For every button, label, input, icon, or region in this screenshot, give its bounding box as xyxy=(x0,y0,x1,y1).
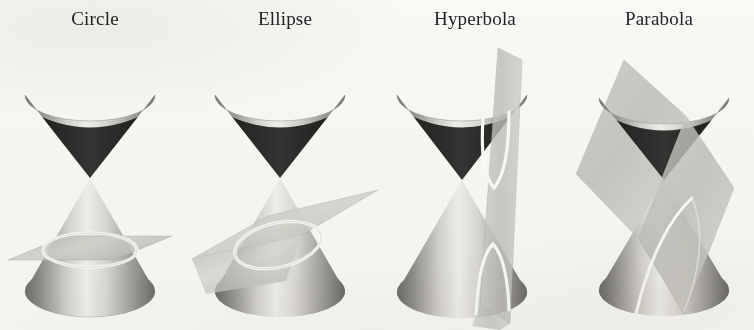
panel-label-parabola: Parabola xyxy=(564,8,754,30)
panel-label-ellipse: Ellipse xyxy=(190,8,380,30)
cone-diagram-circle xyxy=(0,38,190,330)
panel-hyperbola: Hyperbola xyxy=(380,0,570,330)
panel-ellipse: Ellipse xyxy=(190,0,380,330)
panel-parabola: Parabola xyxy=(564,0,754,330)
panel-label-circle: Circle xyxy=(0,8,190,30)
panel-circle: Circle xyxy=(0,0,190,330)
conic-sections-figure: Circle xyxy=(0,0,754,330)
cutting-plane-circle xyxy=(8,236,172,260)
cone-diagram-hyperbola xyxy=(380,38,570,330)
panel-label-hyperbola: Hyperbola xyxy=(380,8,570,30)
cone-diagram-ellipse xyxy=(190,38,380,330)
cone-diagram-parabola xyxy=(564,38,754,330)
